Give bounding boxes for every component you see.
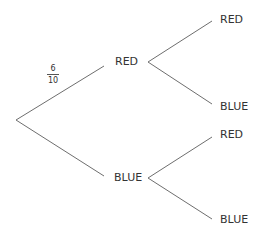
branch-red-to-red	[148, 21, 212, 62]
fraction-denominator: 10	[48, 76, 58, 85]
branch-blue-to-red	[148, 137, 212, 178]
leaf-blue-blue: BLUE	[220, 214, 248, 226]
node-first-blue: BLUE	[114, 172, 142, 184]
leaf-red-red: RED	[220, 14, 243, 26]
leaf-blue-red: RED	[220, 129, 243, 141]
branch-root-to-blue	[16, 120, 104, 176]
branch-blue-to-blue	[148, 178, 212, 219]
leaf-red-blue: BLUE	[220, 101, 248, 113]
fraction-bar	[47, 74, 59, 75]
branch-red-to-blue	[148, 62, 212, 104]
probability-fraction: 6 10	[46, 64, 60, 85]
tree-branches	[0, 0, 261, 238]
branch-root-to-red	[16, 66, 104, 120]
fraction-numerator: 6	[50, 64, 55, 73]
tree-diagram: 6 10 RED BLUE RED BLUE RED BLUE	[0, 0, 261, 238]
node-first-red: RED	[115, 56, 138, 68]
